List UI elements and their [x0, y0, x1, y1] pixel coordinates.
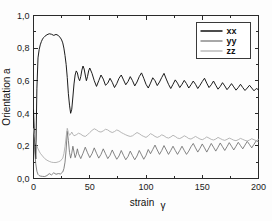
legend-label-xx: xx	[227, 26, 237, 36]
y-tick-label: 0,8	[17, 43, 30, 53]
legend-label-yy: yy	[227, 36, 237, 46]
x-tick-label: 100	[138, 182, 153, 192]
y-tick-label: 0,6	[17, 76, 30, 86]
x-axis-title: strainγ	[130, 197, 166, 211]
y-axis-title: Orientation a	[1, 68, 12, 126]
y-tick-label: 0,2	[17, 141, 30, 151]
x-tick-label: 150	[195, 182, 210, 192]
chart-figure: 0501001502000,00,20,40,60,81,0Orientatio…	[0, 0, 272, 221]
y-tick-label: 0,4	[17, 109, 30, 119]
x-tick-label: 50	[85, 182, 95, 192]
series-line-yy	[34, 130, 259, 177]
legend-label-zz: zz	[227, 46, 237, 56]
x-tick-label: 0	[31, 182, 36, 192]
x-tick-label: 200	[251, 182, 266, 192]
y-tick-label: 0,0	[17, 174, 30, 184]
x-axis-title-text: strain	[130, 197, 154, 208]
line-chart-plot: 0501001502000,00,20,40,60,81,0Orientatio…	[0, 0, 272, 221]
x-axis-title-symbol: γ	[161, 200, 166, 211]
y-tick-label: 1,0	[17, 11, 30, 21]
chart-legend: xxyyzz	[197, 23, 251, 59]
